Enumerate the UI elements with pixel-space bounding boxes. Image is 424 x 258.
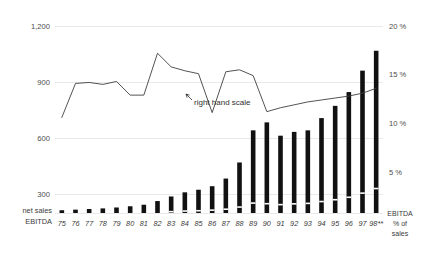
right-series-label: EBITDA % of sales	[387, 210, 413, 237]
bar-net-sales-82[interactable]	[155, 201, 160, 213]
bar-ebitda-divider-98**	[374, 188, 379, 190]
year-label-89: 89	[249, 219, 257, 228]
ebitda-percent-line	[62, 53, 376, 117]
bar-ebitda-divider-95	[333, 199, 338, 201]
bar-81[interactable]	[142, 205, 147, 213]
left-tick-300: 300	[37, 190, 50, 199]
left-tick-600: 600	[37, 134, 50, 143]
year-label-81: 81	[140, 219, 148, 228]
right-tick-20: 20 %	[389, 22, 407, 31]
bar-ebitda-divider-85	[196, 210, 201, 212]
bar-net-sales-93[interactable]	[306, 130, 311, 213]
bar-84[interactable]	[183, 192, 188, 213]
bar-96[interactable]	[347, 92, 352, 213]
bar-92[interactable]	[292, 132, 297, 213]
net-sales-label: net sales	[22, 206, 52, 215]
bar-94[interactable]	[319, 118, 324, 213]
bar-75[interactable]	[60, 210, 65, 213]
bar-87[interactable]	[224, 179, 229, 213]
year-label-96: 96	[345, 219, 354, 228]
bar-ebitda-divider-91	[278, 204, 283, 206]
left-series-labels: net sales EBITDA	[22, 206, 52, 226]
bar-ebitda-divider-96	[347, 196, 352, 198]
year-label-77: 77	[85, 219, 94, 228]
bar-net-sales-80[interactable]	[128, 206, 133, 213]
bar-ebitda-divider-93	[306, 203, 311, 205]
bar-net-sales-88[interactable]	[237, 162, 242, 213]
left-tick-1200: 1,200	[31, 22, 50, 31]
bar-net-sales-85[interactable]	[196, 190, 201, 213]
right-label-line1: EBITDA	[387, 210, 413, 217]
bar-76[interactable]	[73, 210, 78, 213]
bar-85[interactable]	[196, 190, 201, 213]
bar-93[interactable]	[306, 130, 311, 213]
year-label-83: 83	[167, 219, 175, 228]
bar-net-sales-81[interactable]	[142, 205, 147, 213]
bar-net-sales-89[interactable]	[251, 130, 256, 213]
bar-77[interactable]	[87, 209, 92, 213]
bar-83[interactable]	[169, 196, 174, 213]
bar-82[interactable]	[155, 201, 160, 213]
year-label-90: 90	[263, 219, 271, 228]
bar-97[interactable]	[360, 71, 365, 213]
year-label-75: 75	[58, 219, 67, 228]
ebitda-label: EBITDA	[25, 217, 52, 226]
right-tick-10: 10 %	[389, 119, 407, 128]
bar-net-sales-78[interactable]	[101, 208, 106, 213]
bar-ebitda-divider-83	[169, 211, 174, 213]
bar-86[interactable]	[210, 186, 215, 213]
bar-net-sales-87[interactable]	[224, 179, 229, 213]
bar-net-sales-96[interactable]	[347, 92, 352, 213]
left-tick-900: 900	[37, 78, 50, 87]
year-label-88: 88	[235, 219, 244, 228]
bar-ebitda-divider-86	[210, 209, 215, 211]
year-label-94: 94	[317, 219, 325, 228]
chart-container: 1,200 900 600 300 20 % 15 % 10 % 5 % rig…	[0, 0, 424, 258]
bar-79[interactable]	[114, 207, 119, 213]
bar-net-sales-79[interactable]	[114, 207, 119, 213]
bar-net-sales-76[interactable]	[73, 210, 78, 213]
x-axis-year-labels: 7576777879808182838485868788899091929394…	[58, 219, 384, 228]
bar-net-sales-90[interactable]	[265, 122, 270, 213]
bar-net-sales-94[interactable]	[319, 118, 324, 213]
right-label-line3: sales	[392, 230, 409, 237]
bar-ebitda-divider-88	[237, 206, 242, 208]
year-label-87: 87	[222, 219, 231, 228]
bar-net-sales-91[interactable]	[278, 136, 283, 213]
year-label-92: 92	[290, 219, 298, 228]
year-label-93: 93	[304, 219, 312, 228]
bar-88[interactable]	[237, 162, 242, 213]
year-label-86: 86	[208, 219, 217, 228]
bar-ebitda-divider-90	[265, 203, 270, 205]
bar-net-sales-75[interactable]	[60, 210, 65, 213]
right-axis-ticks: 20 % 15 % 10 % 5 %	[389, 22, 407, 177]
bar-90[interactable]	[265, 122, 270, 213]
bar-ebitda-divider-89	[251, 202, 256, 204]
bar-ebitda-divider-84	[183, 210, 188, 212]
bar-91[interactable]	[278, 136, 283, 213]
bar-89[interactable]	[251, 130, 256, 213]
year-label-95: 95	[331, 219, 340, 228]
bar-ebitda-divider-92	[292, 203, 297, 205]
left-axis-ticks: 1,200 900 600 300	[31, 22, 50, 199]
year-label-84: 84	[181, 219, 189, 228]
bar-78[interactable]	[101, 208, 106, 213]
bar-net-sales-95[interactable]	[333, 106, 338, 213]
bar-80[interactable]	[128, 206, 133, 213]
bar-net-sales-77[interactable]	[87, 209, 92, 213]
bar-net-sales-84[interactable]	[183, 192, 188, 213]
right-tick-15: 15 %	[389, 70, 407, 79]
bar-98**[interactable]	[374, 51, 379, 213]
bar-ebitda-divider-87	[224, 208, 229, 210]
bar-net-sales-92[interactable]	[292, 132, 297, 213]
right-hand-scale-annotation: right hand scale	[186, 94, 251, 107]
bar-95[interactable]	[333, 106, 338, 213]
bar-net-sales-97[interactable]	[360, 71, 365, 213]
bar-net-sales-86[interactable]	[210, 186, 215, 213]
bars-layer	[60, 51, 379, 213]
bar-net-sales-83[interactable]	[169, 196, 174, 213]
year-label-78: 78	[99, 219, 108, 228]
right-tick-5: 5 %	[389, 168, 402, 177]
bar-ebitda-divider-94	[319, 201, 324, 203]
year-label-97: 97	[358, 219, 367, 228]
